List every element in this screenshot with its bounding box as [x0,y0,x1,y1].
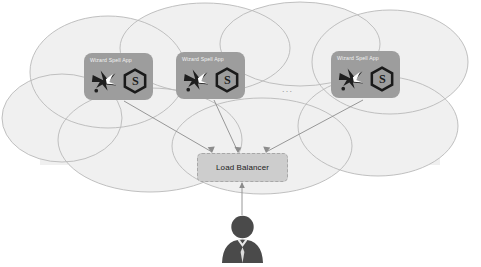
svg-text:S: S [379,72,386,86]
app-node-2-label: Wizard Spell App [182,56,240,63]
wizard-icon [338,65,366,93]
app-node-2-icons: S [176,65,245,97]
wizard-icon [183,66,211,94]
hexagon-s-icon: S [122,68,148,94]
diagram-canvas: Wizard Spell App S Wizard Spell App [0,0,481,267]
svg-text:S: S [224,73,231,87]
load-balancer-node[interactable]: Load Balancer [197,153,288,182]
app-node-1-label: Wizard Spell App [90,57,148,64]
app-node-1[interactable]: Wizard Spell App S [84,53,153,100]
app-node-1-icons: S [84,66,153,98]
load-balancer-label: Load Balancer [216,163,269,172]
wizard-icon [91,67,119,95]
user-person-icon [219,214,266,264]
hexagon-s-icon: S [369,66,395,92]
app-node-2[interactable]: Wizard Spell App S [176,52,245,99]
hexagon-s-icon: S [214,67,240,93]
app-node-3-label: Wizard Spell App [337,55,395,62]
app-node-3-icons: S [331,64,400,96]
app-node-3[interactable]: Wizard Spell App S [331,51,400,98]
svg-text:S: S [132,74,139,88]
ellipsis-more-nodes: ... [282,84,293,94]
